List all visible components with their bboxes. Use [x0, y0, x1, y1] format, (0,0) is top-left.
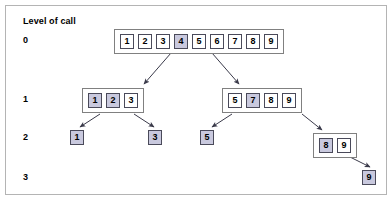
- array-cell: 5: [200, 130, 214, 145]
- array-cell: 3: [124, 93, 138, 108]
- figure-caption: Level of call: [23, 16, 76, 26]
- array-node-l2-a: 1: [70, 130, 84, 145]
- array-cell: 8: [264, 93, 278, 108]
- array-cell: 1: [88, 93, 102, 108]
- array-cell: 3: [156, 34, 170, 49]
- array-cell: 7: [246, 93, 260, 108]
- level-label-0: 0: [23, 35, 28, 45]
- array-node-l3-a: 9: [362, 170, 376, 185]
- array-cell: 3: [148, 130, 162, 145]
- array-node-root: 123456789: [114, 29, 284, 54]
- array-cell: 4: [174, 34, 188, 49]
- array-cell: 9: [337, 138, 351, 153]
- array-node-l1-right: 5789: [222, 88, 302, 113]
- array-cell: 9: [362, 170, 376, 185]
- array-cell: 9: [264, 34, 278, 49]
- array-node-l1-left: 123: [82, 88, 144, 113]
- array-node-l2-c: 5: [200, 130, 214, 145]
- array-cell: 8: [319, 138, 333, 153]
- level-label-1: 1: [23, 94, 28, 104]
- array-node-l2-b: 3: [148, 130, 162, 145]
- array-cell: 7: [228, 34, 242, 49]
- array-cell: 1: [120, 34, 134, 49]
- array-cell: 2: [106, 93, 120, 108]
- array-cell: 1: [70, 130, 84, 145]
- level-label-2: 2: [23, 132, 28, 142]
- array-cell: 5: [228, 93, 242, 108]
- array-cell: 8: [246, 34, 260, 49]
- array-cell: 6: [210, 34, 224, 49]
- recursion-tree-figure: Level of call 0123 123456789123578913589…: [0, 0, 392, 200]
- array-cell: 2: [138, 34, 152, 49]
- array-node-l2-d: 89: [313, 133, 357, 158]
- array-cell: 9: [282, 93, 296, 108]
- array-cell: 5: [192, 34, 206, 49]
- level-label-3: 3: [23, 172, 28, 182]
